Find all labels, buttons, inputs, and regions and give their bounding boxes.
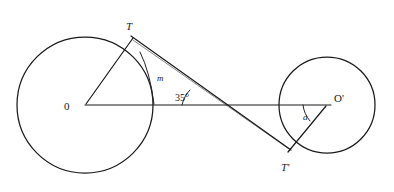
- geometry-canvas: 0 O' T T' m 35° a: [0, 0, 394, 192]
- radius-OT: [86, 38, 133, 104]
- label-left-center: 0: [64, 100, 70, 112]
- label-right-center: O': [334, 92, 344, 104]
- label-tangent-point-right: T': [281, 161, 290, 173]
- tangent-line-duplicate-stroke: [133, 40, 289, 149]
- label-angle-35: 35°: [175, 92, 189, 103]
- label-segment-m: m: [157, 73, 164, 83]
- tangent-line-TT: [131, 36, 291, 150]
- label-angle-alpha: a: [303, 112, 308, 122]
- label-tangent-point-left: T: [126, 20, 133, 32]
- geometry-diagram: 0 O' T T' m 35° a: [0, 0, 394, 192]
